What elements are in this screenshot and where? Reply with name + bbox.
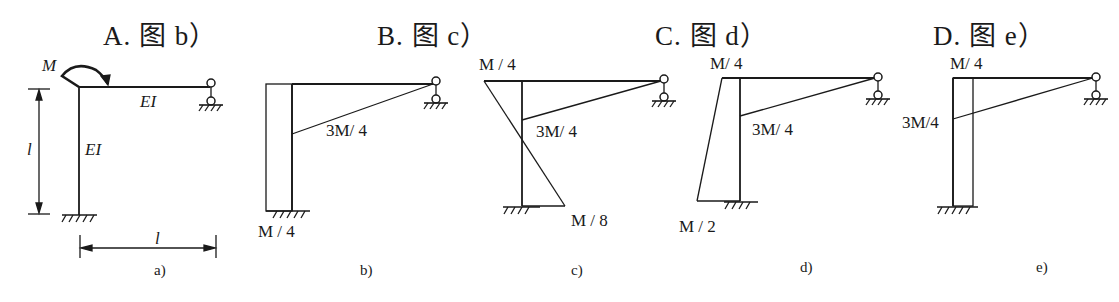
label-m4-top: M / 4 xyxy=(479,55,516,75)
figure-e-moment-diagram xyxy=(937,73,1108,214)
label-3m4: 3M/ 4 xyxy=(326,121,367,141)
label-3m4: 3M/ 4 xyxy=(752,120,793,140)
option-d-label[interactable]: D. 图 e） xyxy=(933,14,1046,53)
option-a-label[interactable]: A. 图 b） xyxy=(103,14,217,53)
caption-c: c) xyxy=(571,262,583,279)
figure-b-moment-diagram xyxy=(266,77,448,218)
option-c-label[interactable]: C. 图 d） xyxy=(655,14,768,53)
height-dimension-label: l xyxy=(27,140,32,160)
column-stiffness-label: EI xyxy=(85,140,101,160)
label-m8: M / 8 xyxy=(571,211,608,231)
caption-e: e) xyxy=(1036,259,1048,276)
moment-label: M xyxy=(42,56,56,76)
label-m4-top: M/ 4 xyxy=(710,54,743,74)
option-b-label[interactable]: B. 图 c） xyxy=(377,14,488,53)
label-m4-top: M/ 4 xyxy=(950,54,983,74)
label-3m4: 3M/4 xyxy=(902,113,939,133)
caption-b: b) xyxy=(360,262,373,279)
figure-d-moment-diagram xyxy=(697,73,890,209)
caption-a: a) xyxy=(154,262,166,279)
figure-a-structure xyxy=(28,66,223,258)
label-m4-base: M / 4 xyxy=(258,222,295,242)
caption-d: d) xyxy=(800,259,813,276)
beam-stiffness-label: EI xyxy=(140,92,156,112)
label-3m4: 3M/ 4 xyxy=(536,122,577,142)
figure-c-moment-diagram xyxy=(484,75,676,214)
span-dimension-label: l xyxy=(155,229,160,249)
label-m2: M / 2 xyxy=(679,217,716,237)
